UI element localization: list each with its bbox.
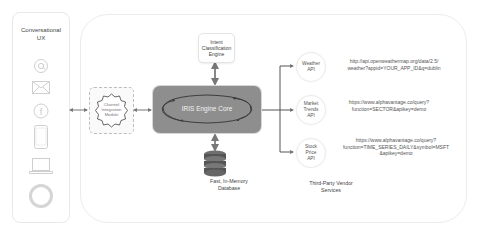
weather-api-url: http://api.openweathermap.org/data/2.5/ … [330,58,458,71]
stock-price-api-url: https://www.alphavantage.co/query? funct… [330,137,462,157]
database-icon [203,150,227,178]
market-trends-api-label: Market Trends API [297,101,325,119]
channel-integration-module: Channel Integration Module [89,87,134,134]
intent-classification-engine: Intent Classification Engine [198,33,235,63]
channel-integration-module-label: Channel Integration Module [90,102,133,117]
market-trends-api-node: Market Trends API [296,95,326,125]
third-party-vendor-services-label: Third-Party Vendor Services [296,180,366,194]
weather-api-node: Weather API [296,52,326,82]
weather-api-label: Weather API [297,61,325,73]
stock-price-api-label: Stock Price API [297,144,325,162]
stock-price-api-node: Stock Price API [296,138,326,168]
iris-engine-core: IRIS Engine Core [153,86,261,133]
market-trends-api-url: https://www.alphavantage.co/query? funct… [330,99,448,112]
iris-engine-core-label: IRIS Engine Core [153,105,261,112]
database-label: Fast, In-Memory Database [196,178,262,192]
intent-classification-engine-label: Intent Classification Engine [199,39,234,57]
